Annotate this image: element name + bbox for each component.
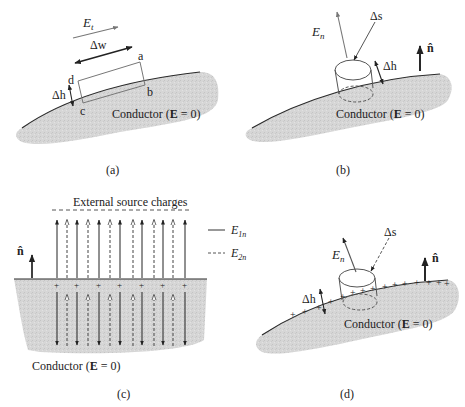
conductor-label: Conductor (E = 0) bbox=[112, 107, 200, 121]
svg-text:+: + bbox=[290, 309, 296, 320]
svg-text:+: + bbox=[426, 277, 432, 288]
legend-e2n: E2n bbox=[230, 246, 246, 262]
svg-text:+: + bbox=[316, 302, 322, 313]
caption-d: (d) bbox=[340, 387, 354, 401]
field-arrow-et bbox=[73, 27, 118, 38]
corner-b: b bbox=[147, 85, 153, 99]
caption-a: (a) bbox=[106, 163, 119, 177]
svg-text:+: + bbox=[382, 281, 388, 292]
area-label: Δs bbox=[384, 225, 397, 239]
height-arrow bbox=[375, 61, 383, 84]
conductor-label: Conductor (E = 0) bbox=[32, 359, 120, 373]
panel-a: Et Δw a b c d Δh Conductor (E = 0) (a) bbox=[16, 15, 218, 177]
normal-label: n̂ bbox=[17, 244, 24, 258]
area-arrow bbox=[371, 238, 389, 271]
svg-text:+: + bbox=[160, 280, 165, 290]
field-arrow-en bbox=[343, 238, 356, 272]
conductor-label: Conductor (E = 0) bbox=[336, 107, 424, 121]
svg-text:+: + bbox=[182, 280, 187, 290]
svg-text:+: + bbox=[74, 280, 79, 290]
svg-text:+: + bbox=[370, 283, 376, 294]
caption-b: (b) bbox=[336, 163, 350, 177]
svg-text:+: + bbox=[340, 291, 346, 302]
field-label-en: En bbox=[331, 247, 345, 264]
diagram-canvas: Et Δw a b c d Δh Conductor (E = 0) (a) E… bbox=[0, 0, 465, 407]
svg-text:+: + bbox=[402, 278, 408, 289]
field-arrow-en bbox=[337, 12, 347, 58]
corner-a: a bbox=[138, 49, 144, 63]
field-label-et: Et bbox=[82, 15, 94, 32]
svg-text:+: + bbox=[302, 306, 308, 317]
panel-d: En Δs Δh n̂ + + + + + + + + + + + + + + … bbox=[256, 225, 459, 401]
external-charges-label: External source charges bbox=[73, 195, 188, 209]
svg-text:+: + bbox=[392, 279, 398, 290]
field-label-en: En bbox=[311, 24, 325, 41]
svg-text:+: + bbox=[414, 277, 420, 288]
svg-text:+: + bbox=[96, 280, 101, 290]
svg-text:+: + bbox=[444, 278, 450, 289]
height-label: Δh bbox=[302, 292, 316, 306]
normal-label: n̂ bbox=[427, 41, 434, 55]
caption-c: (c) bbox=[117, 387, 130, 401]
svg-text:+: + bbox=[350, 287, 356, 298]
area-label: Δs bbox=[370, 9, 383, 23]
legend: E1n E2n bbox=[208, 223, 246, 262]
height-label: Δh bbox=[383, 59, 397, 73]
svg-text:+: + bbox=[117, 280, 122, 290]
legend-e1n: E1n bbox=[230, 223, 246, 239]
area-arrow bbox=[354, 22, 375, 60]
e1n-arrows-above bbox=[57, 220, 185, 278]
svg-text:+: + bbox=[54, 280, 59, 290]
panel-c: External source charges n̂ + bbox=[14, 195, 246, 401]
conductor-label: Conductor (E = 0) bbox=[344, 317, 432, 331]
svg-text:+: + bbox=[328, 296, 334, 307]
svg-text:+: + bbox=[139, 280, 144, 290]
panel-b: En Δs Δh n̂ Conductor (E = 0) (b) bbox=[246, 9, 452, 177]
conductor-body bbox=[14, 279, 207, 353]
corner-d: d bbox=[68, 73, 74, 87]
svg-text:+: + bbox=[436, 277, 442, 288]
corner-c: c bbox=[80, 104, 85, 118]
svg-text:+: + bbox=[360, 285, 366, 296]
width-label: Δw bbox=[90, 38, 107, 52]
pillbox-top bbox=[335, 60, 371, 80]
height-label: Δh bbox=[52, 88, 66, 102]
normal-label: n̂ bbox=[432, 251, 439, 265]
